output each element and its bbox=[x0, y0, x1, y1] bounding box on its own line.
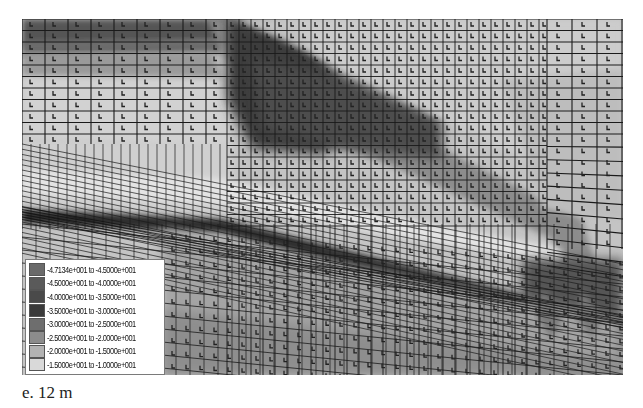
legend-entry: -1.5000e+001 to -1.0000e+001 bbox=[29, 358, 162, 372]
legend-label: -4.5000e+001 to -4.0000e+001 bbox=[47, 278, 136, 288]
legend-label: -3.0000e+001 to -2.5000e+001 bbox=[47, 319, 136, 329]
legend-label: -2.0000e+001 to -1.5000e+001 bbox=[47, 346, 136, 356]
legend-entry: -4.5000e+001 to -4.0000e+001 bbox=[29, 277, 162, 291]
legend-entry: -2.5000e+001 to -2.0000e+001 bbox=[29, 331, 162, 345]
legend-entry: -4.7134e+001 to -4.5000e+001 bbox=[29, 263, 162, 277]
legend-swatch bbox=[29, 358, 45, 371]
legend-swatch bbox=[29, 318, 45, 331]
contour-plot: -4.7134e+001 to -4.5000e+001-4.5000e+001… bbox=[22, 19, 623, 375]
legend-swatch bbox=[29, 277, 45, 290]
legend-label: -4.0000e+001 to -3.5000e+001 bbox=[47, 292, 136, 302]
legend-entry: -2.0000e+001 to -1.5000e+001 bbox=[29, 345, 162, 359]
legend-swatch bbox=[29, 290, 45, 303]
color-legend: -4.7134e+001 to -4.5000e+001-4.5000e+001… bbox=[25, 259, 165, 375]
legend-swatch bbox=[29, 345, 45, 358]
legend-label: -3.5000e+001 to -3.0000e+001 bbox=[47, 306, 136, 316]
legend-entry: -3.0000e+001 to -2.5000e+001 bbox=[29, 317, 162, 331]
legend-label: -1.5000e+001 to -1.0000e+001 bbox=[47, 360, 136, 370]
legend-swatch bbox=[29, 331, 45, 344]
legend-entry: -3.5000e+001 to -3.0000e+001 bbox=[29, 304, 162, 318]
legend-swatch bbox=[29, 263, 45, 276]
legend-label: -2.5000e+001 to -2.0000e+001 bbox=[47, 333, 136, 343]
legend-label: -4.7134e+001 to -4.5000e+001 bbox=[47, 265, 136, 275]
legend-swatch bbox=[29, 304, 45, 317]
legend-entry: -4.0000e+001 to -3.5000e+001 bbox=[29, 290, 162, 304]
figure-caption: e. 12 m bbox=[22, 383, 73, 403]
